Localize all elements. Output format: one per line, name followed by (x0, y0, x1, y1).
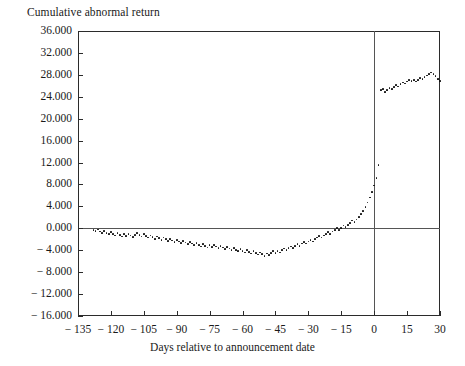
data-point (391, 88, 393, 90)
y-tick-mark (78, 294, 83, 295)
data-point (182, 240, 184, 242)
data-point (439, 80, 441, 82)
data-point (323, 235, 325, 237)
data-point (139, 234, 141, 236)
y-tick-label: − 16.000 (10, 310, 72, 322)
data-point (200, 246, 202, 248)
plot-area (78, 31, 440, 316)
data-point (417, 79, 419, 81)
data-point (340, 227, 342, 229)
data-point (376, 177, 378, 179)
data-point (97, 229, 99, 231)
data-point (101, 232, 103, 234)
chart-root: Cumulative abnormal return − 16.000− 12.… (0, 0, 465, 366)
x-tick-mark (78, 311, 79, 316)
y-tick-label: − 8.000 (10, 266, 72, 278)
y-tick-label: − 4.000 (10, 244, 72, 256)
y-tick-mark (78, 272, 83, 273)
y-tick-label: 32.000 (10, 47, 72, 59)
x-tick-label: 30 (417, 324, 463, 336)
data-point (158, 237, 160, 239)
x-tick-mark (440, 311, 441, 316)
data-point (281, 249, 283, 251)
x-tick-mark (144, 311, 145, 316)
data-point (382, 88, 384, 90)
data-point (329, 233, 331, 235)
y-tick-label: 24.000 (10, 91, 72, 103)
y-tick-mark (78, 75, 83, 76)
data-point (415, 81, 417, 83)
announcement-date-line (374, 31, 375, 316)
data-point (384, 91, 386, 93)
y-tick-label: 28.000 (10, 69, 72, 81)
y-tick-mark (78, 119, 83, 120)
data-point (180, 242, 182, 244)
y-tick-mark (78, 31, 83, 32)
x-axis-title: Days relative to announcement date (0, 341, 465, 353)
data-point (360, 213, 362, 215)
y-tick-label: 4.000 (10, 200, 72, 212)
data-point (218, 247, 220, 249)
data-point (187, 243, 189, 245)
data-point (108, 233, 110, 235)
y-tick-label: − 12.000 (10, 288, 72, 300)
data-point (349, 222, 351, 224)
y-tick-label: 20.000 (10, 113, 72, 125)
data-point (204, 245, 206, 247)
data-point (428, 73, 430, 75)
data-point (226, 246, 228, 248)
data-point (347, 224, 349, 226)
data-point (244, 252, 246, 254)
y-tick-mark (78, 97, 83, 98)
data-point (154, 238, 156, 240)
data-point (314, 238, 316, 240)
zero-reference-line (78, 228, 440, 229)
data-point (93, 229, 95, 231)
y-tick-label: 8.000 (10, 178, 72, 190)
y-tick-mark (78, 163, 83, 164)
x-tick-mark (243, 311, 244, 316)
x-tick-mark (210, 311, 211, 316)
data-point (132, 236, 134, 238)
data-point (134, 234, 136, 236)
y-tick-mark (78, 141, 83, 142)
data-point (371, 191, 373, 193)
data-point (408, 79, 410, 81)
y-tick-mark (78, 206, 83, 207)
data-point (294, 245, 296, 247)
data-point (125, 235, 127, 237)
y-tick-mark (78, 53, 83, 54)
data-point (393, 86, 395, 88)
data-point (325, 233, 327, 235)
x-tick-mark (407, 311, 408, 316)
data-point (365, 206, 367, 208)
data-point (334, 229, 336, 231)
data-point (318, 235, 320, 237)
x-tick-mark (341, 311, 342, 316)
data-point (358, 216, 360, 218)
data-point (279, 252, 281, 254)
data-point (161, 239, 163, 241)
data-point (240, 248, 242, 250)
y-tick-label: 0.000 (10, 222, 72, 234)
y-tick-mark (78, 316, 83, 317)
data-point (292, 247, 294, 249)
x-tick-mark (374, 311, 375, 316)
y-tick-label: 12.000 (10, 157, 72, 169)
x-tick-mark (177, 311, 178, 316)
data-point (270, 252, 272, 254)
data-point (224, 248, 226, 250)
x-tick-mark (308, 311, 309, 316)
data-point (433, 73, 435, 75)
data-point (167, 240, 169, 242)
data-point (211, 246, 213, 248)
y-tick-label: 36.000 (10, 25, 72, 37)
data-point (338, 229, 340, 231)
y-tick-mark (78, 228, 83, 229)
data-point (362, 210, 364, 212)
y-tick-mark (78, 250, 83, 251)
x-tick-mark (111, 311, 112, 316)
data-point (268, 254, 270, 256)
x-tick-mark (275, 311, 276, 316)
y-tick-mark (78, 184, 83, 185)
